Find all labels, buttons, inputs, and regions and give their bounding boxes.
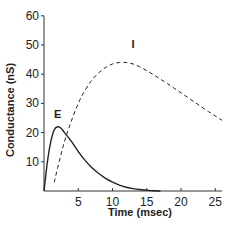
y-tick-label: 10 [26,155,40,169]
y-axis-label: Conductance (nS) [4,63,16,157]
chart-canvas: 102030405060510152025 EI Time (msec) Con… [0,0,238,230]
series-label-I: I [132,38,135,50]
y-tick-label: 40 [26,67,40,81]
x-tick-label: 20 [174,195,188,209]
series-E-line [44,127,160,191]
x-axis-label: Time (msec) [108,206,172,218]
y-tick-label: 50 [26,38,40,52]
x-tick-label: 5 [75,195,82,209]
y-tick-label: 20 [26,126,40,140]
chart: 102030405060510152025 EI Time (msec) Con… [0,0,238,230]
series-group [44,62,222,191]
x-tick-label: 25 [209,195,223,209]
y-tick-label: 30 [26,96,40,110]
series-label-E: E [54,108,61,120]
y-tick-label: 60 [26,9,40,23]
series-I-line [54,62,222,182]
annotations: EI [54,38,135,120]
